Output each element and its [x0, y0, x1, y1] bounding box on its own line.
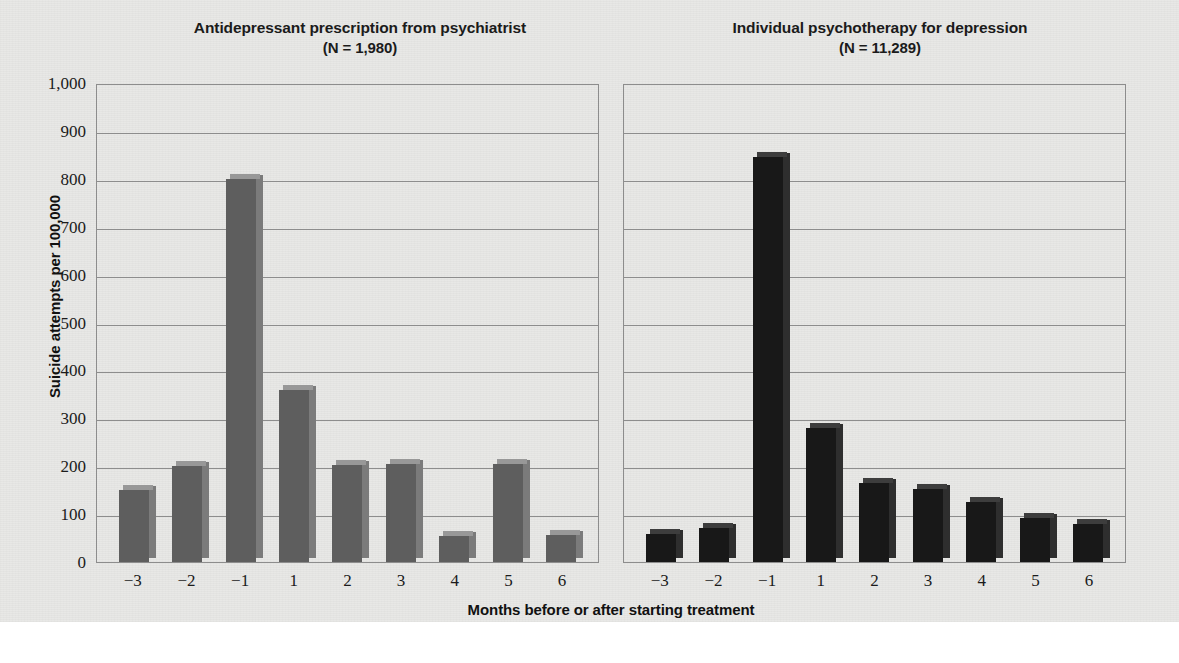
bar-front-face — [1073, 524, 1103, 562]
bar-side-face — [523, 460, 530, 558]
bar-group-antidepressant — [97, 83, 598, 562]
y-axis-tick-300: 300 — [24, 409, 86, 429]
bar-psychotherapy-4[interactable] — [962, 502, 1000, 562]
bar-antidepressant-6[interactable] — [542, 535, 580, 562]
panel-title-left-line1: Antidepressant prescription from psychia… — [194, 19, 526, 36]
bar-shape — [386, 464, 416, 562]
y-axis-tick-900: 900 — [24, 122, 86, 142]
bar-shape — [226, 179, 256, 562]
panel-title-right: Individual psychotherapy for depression … — [620, 18, 1140, 57]
bar-front-face — [332, 465, 362, 562]
bar-side-face — [362, 461, 369, 558]
bar-top-face — [970, 497, 1000, 502]
bar-antidepressant-2[interactable] — [328, 465, 366, 562]
x-axis-tick-left-minus3: −3 — [114, 571, 152, 597]
bar-psychotherapy-minus1[interactable] — [749, 157, 787, 562]
bar-side-face — [836, 424, 843, 558]
bar-shape — [966, 502, 996, 562]
bar-front-face — [806, 428, 836, 562]
bar-side-face — [576, 531, 583, 558]
bar-front-face — [226, 179, 256, 562]
figure-container: Antidepressant prescription from psychia… — [0, 0, 1179, 663]
bar-front-face — [753, 157, 783, 562]
y-axis-tick-200: 200 — [24, 457, 86, 477]
bar-front-face — [493, 464, 523, 562]
x-axis-tick-right-minus1: −1 — [748, 571, 786, 597]
x-axis-tick-left-4: 4 — [436, 571, 474, 597]
bar-antidepressant-4[interactable] — [435, 536, 473, 562]
bar-shape — [546, 535, 576, 562]
y-axis-tick-100: 100 — [24, 505, 86, 525]
bar-front-face — [966, 502, 996, 562]
bar-front-face — [119, 490, 149, 562]
bar-shape — [279, 390, 309, 562]
x-axis-tick-right-4: 4 — [963, 571, 1001, 597]
bar-shape — [913, 489, 943, 562]
x-axis-tick-right-minus3: −3 — [641, 571, 679, 597]
bar-front-face — [699, 528, 729, 562]
bar-side-face — [202, 462, 209, 558]
bar-psychotherapy-5[interactable] — [1016, 518, 1054, 562]
y-axis-tick-400: 400 — [24, 361, 86, 381]
bar-top-face — [443, 531, 473, 536]
bar-antidepressant-1[interactable] — [275, 390, 313, 562]
bar-side-face — [309, 386, 316, 558]
bar-top-face — [390, 459, 420, 464]
bar-psychotherapy-minus2[interactable] — [695, 528, 733, 562]
x-axis-tick-left-6: 6 — [543, 571, 581, 597]
bar-top-face — [497, 459, 527, 464]
bar-side-face — [889, 479, 896, 558]
bar-side-face — [783, 153, 790, 558]
bar-side-face — [256, 175, 263, 558]
bar-psychotherapy-2[interactable] — [855, 483, 893, 562]
x-axis-tick-left-1: 1 — [275, 571, 313, 597]
bar-front-face — [859, 483, 889, 562]
bar-shape — [806, 428, 836, 562]
bar-front-face — [172, 466, 202, 562]
bar-top-face — [810, 423, 840, 428]
x-axis-tick-left-5: 5 — [489, 571, 527, 597]
bar-top-face — [703, 523, 733, 528]
bar-shape — [119, 490, 149, 562]
bar-antidepressant-minus3[interactable] — [115, 490, 153, 562]
bar-psychotherapy-6[interactable] — [1069, 524, 1107, 562]
x-axis-tick-left-2: 2 — [328, 571, 366, 597]
bar-top-face — [1024, 513, 1054, 518]
x-axis-ticks-right: −3−2−1123456 — [623, 571, 1126, 597]
bar-top-face — [283, 385, 313, 390]
bar-shape — [439, 536, 469, 562]
bar-psychotherapy-minus3[interactable] — [642, 534, 680, 562]
bar-shape — [493, 464, 523, 562]
bar-psychotherapy-3[interactable] — [909, 489, 947, 562]
bar-shape — [1020, 518, 1050, 562]
bar-front-face — [279, 390, 309, 562]
bar-top-face — [176, 461, 206, 466]
bar-top-face — [917, 484, 947, 489]
bar-front-face — [646, 534, 676, 562]
bar-top-face — [123, 485, 153, 490]
x-axis-tick-right-5: 5 — [1016, 571, 1054, 597]
x-axis-tick-right-minus2: −2 — [694, 571, 732, 597]
bar-shape — [172, 466, 202, 562]
bar-antidepressant-minus1[interactable] — [222, 179, 260, 562]
bar-psychotherapy-1[interactable] — [802, 428, 840, 562]
bar-group-psychotherapy — [624, 83, 1125, 562]
x-axis-label: Months before or after starting treatmen… — [96, 601, 1126, 618]
bar-antidepressant-3[interactable] — [382, 464, 420, 562]
x-axis-tick-left-minus2: −2 — [167, 571, 205, 597]
bar-top-face — [230, 174, 260, 179]
bar-top-face — [550, 530, 580, 535]
bar-antidepressant-minus2[interactable] — [168, 466, 206, 562]
plot-panel-psychotherapy — [623, 84, 1126, 563]
bar-side-face — [149, 486, 156, 558]
bar-front-face — [913, 489, 943, 562]
bar-side-face — [729, 524, 736, 558]
y-axis-tick-500: 500 — [24, 314, 86, 334]
bar-front-face — [439, 536, 469, 562]
panel-title-right-line2: (N = 11,289) — [620, 38, 1140, 57]
bar-side-face — [1103, 520, 1110, 558]
bar-side-face — [996, 498, 1003, 558]
bar-shape — [332, 465, 362, 562]
bar-antidepressant-5[interactable] — [489, 464, 527, 562]
panel-title-left-line2: (N = 1,980) — [100, 38, 620, 57]
